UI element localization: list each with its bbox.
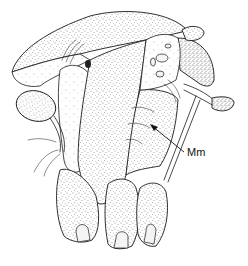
anatomical-illustration [0, 0, 248, 266]
plate-hole-2 [151, 58, 156, 66]
plate-hole-4 [165, 44, 171, 48]
plate-hole-3 [156, 71, 164, 77]
right-dome [178, 38, 214, 86]
top-knob [182, 26, 204, 40]
right-stalk-knob [212, 97, 234, 111]
label-mm: Mm [187, 146, 205, 158]
perforated-plate [140, 34, 180, 90]
left-palp-oval [13, 86, 59, 125]
dark-socket [85, 60, 91, 68]
plate-hole-1 [156, 54, 168, 62]
